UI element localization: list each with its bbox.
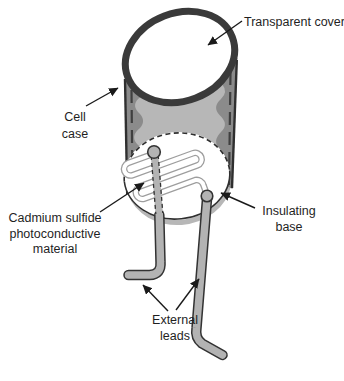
photoconductive-cell-diagram: Transparent cover Cell case Cadmium sulf… [0, 0, 344, 381]
transparent-cover-label: Transparent cover [244, 15, 344, 31]
cell-case-label: Cell case [43, 109, 107, 143]
photoconductive-material-label: Cadmium sulfide photoconductive material [1, 211, 109, 258]
insulating-base-label: Insulating base [251, 204, 327, 235]
cell-case-arrow [86, 88, 118, 106]
external-leads-label: External leads [141, 313, 209, 344]
left-lead-terminal [148, 146, 161, 159]
left-lead-outline [129, 215, 161, 275]
external-lead-left-arrow [143, 285, 168, 311]
insulating-base-arrow [221, 193, 255, 208]
right-lead-terminal [201, 190, 213, 202]
